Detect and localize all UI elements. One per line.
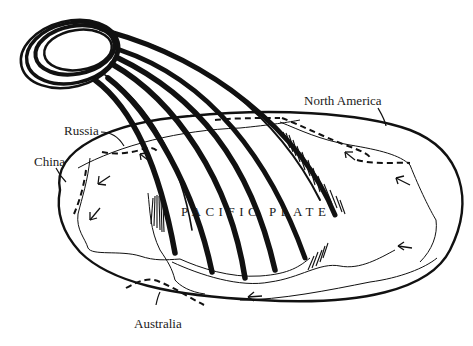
label-china: China xyxy=(34,154,65,169)
arrow-icon xyxy=(345,152,355,160)
arrow-icon xyxy=(98,176,110,185)
label-australia: Australia xyxy=(134,316,182,331)
strands xyxy=(95,30,335,278)
arrow-icon xyxy=(396,176,410,185)
pacific-plate-diagram: North America Russia China Australia PAC… xyxy=(0,0,473,346)
hatched-ridges xyxy=(151,132,345,270)
ring-loop xyxy=(14,10,127,98)
label-pacific-plate: PACIFIC PLATE xyxy=(181,204,330,219)
arrow-icon xyxy=(398,242,412,250)
label-russia: Russia xyxy=(64,123,99,138)
label-north-america: North America xyxy=(304,93,382,108)
motion-arrows xyxy=(90,152,412,301)
arrow-icon xyxy=(90,208,100,220)
